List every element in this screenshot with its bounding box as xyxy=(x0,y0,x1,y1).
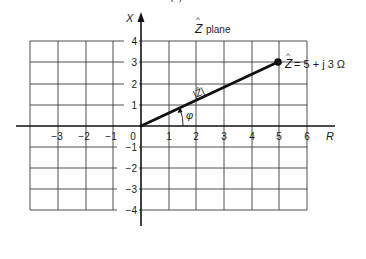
svg-text:3: 3 xyxy=(131,57,137,68)
svg-text:0: 0 xyxy=(130,131,136,142)
svg-text:= 5 + j 3 Ω: = 5 + j 3 Ω xyxy=(294,58,345,70)
svg-text:−2: −2 xyxy=(126,163,138,174)
phasor xyxy=(141,58,282,126)
phasor-endpoint-dot xyxy=(274,58,282,66)
x-tick-labels: −3 −2 −1 0 1 2 3 4 5 6 xyxy=(51,131,310,142)
impedance-plane-diagram: X R −3 −2 −1 0 1 2 3 4 5 6 4 3 2 1 −1 −2… xyxy=(0,0,366,259)
svg-text:Z: Z xyxy=(284,57,293,71)
x-axis-label: R xyxy=(326,130,334,142)
svg-text:−1: −1 xyxy=(105,131,117,142)
svg-text:3: 3 xyxy=(221,131,227,142)
x-axis-arrowhead-icon xyxy=(138,12,145,22)
svg-text:4: 4 xyxy=(131,36,137,47)
svg-text:−4: −4 xyxy=(126,205,138,216)
plane-title: ^ Z plane xyxy=(194,15,231,36)
svg-text:2: 2 xyxy=(131,79,137,90)
axes xyxy=(16,12,335,226)
svg-text:plane: plane xyxy=(206,24,231,35)
angle-indicator: φ xyxy=(178,107,194,126)
svg-text:Z: Z xyxy=(194,22,203,36)
svg-text:−2: −2 xyxy=(78,131,90,142)
phasor-label: ^ Z = 5 + j 3 Ω xyxy=(284,51,345,71)
angle-label: φ xyxy=(186,109,193,121)
phasor-line xyxy=(141,62,278,126)
svg-text:−3: −3 xyxy=(51,131,63,142)
svg-text:6: 6 xyxy=(304,131,310,142)
y-axis-label: X xyxy=(125,12,134,24)
svg-text:4: 4 xyxy=(249,131,255,142)
svg-text:5: 5 xyxy=(276,131,282,142)
svg-text:1: 1 xyxy=(131,100,137,111)
svg-text:1: 1 xyxy=(166,131,172,142)
svg-text:−1: −1 xyxy=(126,142,138,153)
svg-text:2: 2 xyxy=(193,131,199,142)
figure-caption: (b) xyxy=(170,0,182,2)
svg-text:−3: −3 xyxy=(126,184,138,195)
